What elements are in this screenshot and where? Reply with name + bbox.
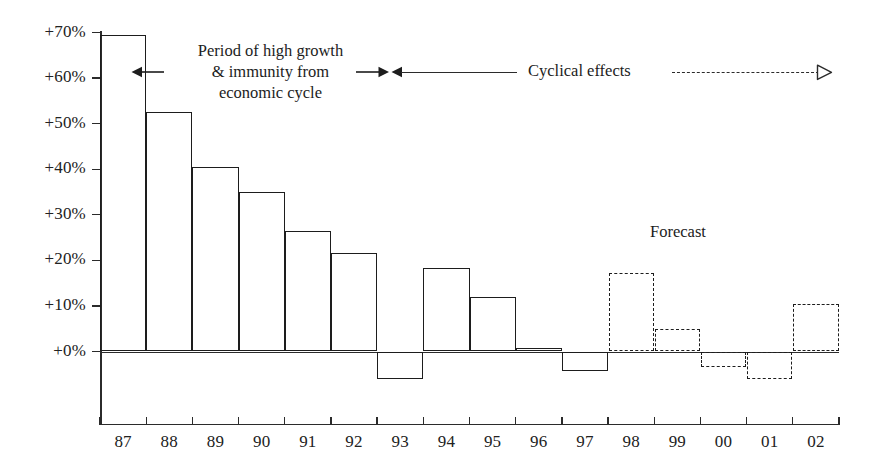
x-tick-label: 02 bbox=[786, 432, 846, 452]
bar-99 bbox=[655, 329, 700, 352]
cyclical-solid-line bbox=[401, 72, 517, 73]
y-tick-label: +70% bbox=[4, 22, 86, 42]
cyclical-dashed-line bbox=[672, 72, 819, 73]
growth-period-annotation: Period of high growth & immunity from ec… bbox=[163, 40, 378, 103]
growth-period-line2: & immunity from bbox=[163, 61, 378, 82]
x-tick-mark bbox=[423, 417, 424, 425]
x-tick-mark bbox=[469, 417, 470, 425]
cyclical-effects-label: Cyclical effects bbox=[528, 61, 631, 81]
growth-period-line1: Period of high growth bbox=[163, 40, 378, 61]
bar-01 bbox=[747, 352, 792, 379]
bar-91 bbox=[285, 231, 331, 352]
bar-00 bbox=[701, 352, 746, 368]
x-tick-mark bbox=[376, 417, 377, 425]
y-tick-label: +60% bbox=[4, 67, 86, 87]
growth-chart: +70%+60%+50%+40%+30%+20%+10%+0% 87888990… bbox=[0, 0, 869, 476]
bar-90 bbox=[239, 192, 285, 351]
x-tick-mark bbox=[515, 417, 516, 425]
growth-left-arrow-icon bbox=[130, 63, 166, 81]
growth-period-line3: economic cycle bbox=[163, 82, 378, 103]
bar-89 bbox=[192, 167, 238, 352]
x-tick-mark bbox=[561, 417, 562, 425]
bar-98 bbox=[609, 273, 654, 352]
x-tick-mark bbox=[99, 417, 100, 425]
growth-right-arrow-icon bbox=[355, 63, 391, 81]
bar-92 bbox=[331, 253, 377, 352]
y-tick-label: +0% bbox=[4, 341, 86, 361]
x-tick-mark bbox=[838, 417, 839, 425]
bar-88 bbox=[146, 112, 192, 351]
x-tick-mark bbox=[330, 417, 331, 425]
y-tick-label: +30% bbox=[4, 204, 86, 224]
x-tick-mark bbox=[192, 417, 193, 425]
x-tick-mark bbox=[146, 417, 147, 425]
bar-94 bbox=[423, 268, 469, 351]
bar-93 bbox=[377, 352, 423, 379]
y-tick-label: +10% bbox=[4, 295, 86, 315]
x-tick-mark bbox=[746, 417, 747, 425]
y-tick-label: +20% bbox=[4, 249, 86, 269]
cyclical-open-arrow-icon bbox=[816, 63, 840, 82]
forecast-label: Forecast bbox=[650, 222, 706, 242]
bar-87 bbox=[100, 35, 146, 352]
x-tick-mark bbox=[792, 417, 793, 425]
x-tick-mark bbox=[284, 417, 285, 425]
bar-02 bbox=[793, 304, 838, 352]
x-tick-mark bbox=[700, 417, 701, 425]
bar-97 bbox=[562, 352, 608, 371]
x-tick-mark bbox=[607, 417, 608, 425]
x-tick-mark bbox=[654, 417, 655, 425]
bar-95 bbox=[470, 297, 516, 352]
y-tick-label: +40% bbox=[4, 158, 86, 178]
x-tick-mark bbox=[238, 417, 239, 425]
y-tick-label: +50% bbox=[4, 113, 86, 133]
bar-96 bbox=[516, 348, 562, 351]
y-tick-mark bbox=[92, 32, 101, 33]
